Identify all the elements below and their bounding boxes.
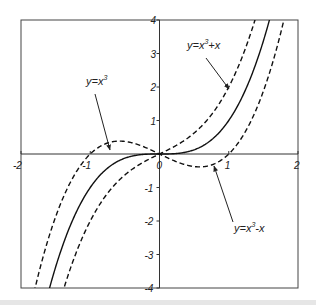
- y-tick-label: -1: [145, 183, 154, 194]
- x-tick-label: -2: [13, 160, 22, 171]
- y-tick-label: 3: [151, 49, 157, 60]
- annotation-label: y=x3+x: [186, 38, 221, 51]
- annotation-arrow: [95, 94, 110, 150]
- annotation-label: y=x3-x: [233, 221, 265, 234]
- y-tick-label: 2: [150, 82, 157, 93]
- x-tick-label: 2: [293, 160, 300, 171]
- x-tick-label: 0: [157, 160, 163, 171]
- y-tick-label: 1: [151, 116, 157, 127]
- y-tick-label: -3: [145, 250, 154, 261]
- y-tick-label: 4: [151, 15, 157, 26]
- x-tick-label: 1: [225, 160, 231, 171]
- y-tick-label: -4: [145, 283, 154, 294]
- bottom-strip: [0, 300, 316, 305]
- annotation-label: y=x3: [85, 74, 107, 87]
- annotation-arrow: [214, 166, 233, 222]
- y-tick-label: -2: [145, 216, 154, 227]
- chart: -2-1012-4-3-2-11234y=x3y=x3+xy=x3-x: [0, 0, 316, 300]
- annotation-arrow: [206, 58, 229, 89]
